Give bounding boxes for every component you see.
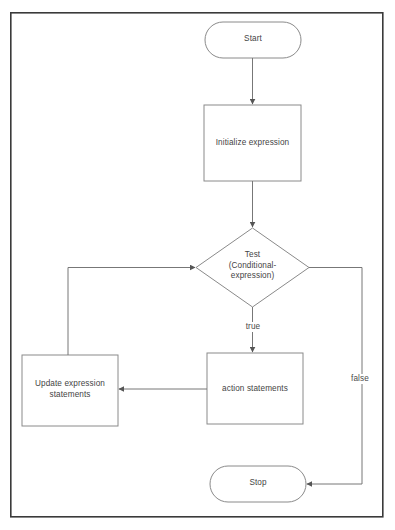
outer-border <box>11 13 383 517</box>
false-edge-label: false <box>346 374 374 384</box>
stop-terminator-shape[interactable] <box>210 466 306 502</box>
flowchart-svg <box>0 0 395 530</box>
flowchart-canvas: Start Initialize expression Test (Condit… <box>0 0 395 530</box>
update-process-shape[interactable] <box>22 355 118 426</box>
initialize-process-shape[interactable] <box>204 105 301 181</box>
true-edge-label: true <box>240 322 266 332</box>
action-process-shape[interactable] <box>207 353 303 424</box>
start-terminator-shape[interactable] <box>205 22 301 58</box>
